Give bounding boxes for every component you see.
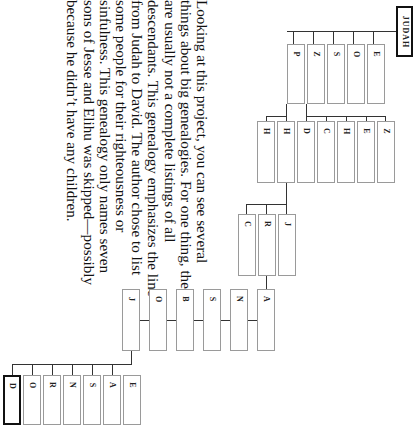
node-gen3-r: R [258,214,276,276]
node-chain-s: S [203,289,221,351]
node-label: O [27,382,37,388]
node-label: D [7,383,17,389]
node-chain-n: N [230,289,248,351]
connector [373,31,374,44]
node-label: J [126,297,136,301]
node-label: S [331,52,341,56]
node-jesse-n: N [63,375,81,425]
node-label: S [207,297,217,301]
node-label: E [127,382,137,387]
node-label: C [242,221,252,227]
connector [194,320,203,321]
node-label: JUDAH [400,15,410,48]
node-gen2-h1: H [257,121,275,183]
node-gen2-e: E [357,121,375,183]
connector [286,104,287,121]
node-label: H [261,128,271,134]
node-label: A [261,296,271,302]
connector [313,31,314,44]
connector [266,204,267,214]
connector [32,364,33,375]
node-jesse-o: O [23,375,41,425]
node-judah: JUDAH [396,6,413,57]
connector [92,364,93,375]
node-label: B [180,296,190,301]
connector [293,31,294,44]
node-gen1-z: Z [307,44,325,104]
node-chain-b: B [176,289,194,351]
node-label: D [301,128,311,134]
connector [112,364,113,375]
node-label: N [234,296,244,302]
node-jesse-e: E [123,375,141,425]
node-gen2-h2: H [277,121,295,183]
connector [246,204,247,214]
node-label: A [107,382,117,388]
connector [286,183,287,214]
node-gen1-o: O [347,44,365,104]
node-label: E [371,51,381,56]
connector [140,320,149,321]
node-gen1-e: E [367,44,385,104]
node-label: R [47,382,57,388]
paragraph-text: Looking at this project, you can see sev… [64,0,210,300]
node-label: R [262,221,272,227]
node-chain-j: J [122,289,140,351]
connector [221,320,230,321]
node-gen1-p: P [287,44,305,104]
connector [131,351,132,365]
connector [353,31,354,44]
node-label: S [87,383,97,387]
node-label: J [282,222,292,226]
connector [266,276,267,289]
node-label: P [291,52,301,57]
node-label: C [321,128,331,134]
node-label: E [361,128,371,133]
node-label: O [153,296,163,302]
connector [266,116,287,117]
node-gen2-d: D [297,121,315,183]
node-chain-a: A [257,289,275,351]
connector [12,364,13,375]
node-gen2-c: C [317,121,335,183]
connector [72,364,73,375]
connector [306,104,307,121]
node-label: O [351,51,361,57]
node-jesse-r: R [43,375,61,425]
node-label: H [341,128,351,134]
node-label: Z [381,128,391,133]
node-jesse-s: S [83,375,101,425]
connector [167,320,176,321]
node-gen3-c: C [238,214,256,276]
commentary-paragraph: Looking at this project, you can see sev… [64,0,210,300]
node-gen1-s: S [327,44,345,104]
node-label: Z [311,51,321,56]
node-jesse-d-david: D [3,375,21,425]
node-gen2-z: Z [377,121,395,183]
node-label: N [67,382,77,388]
connector [287,31,396,32]
node-label: H [281,128,291,134]
node-gen3-j: J [278,214,296,276]
node-jesse-a: A [103,375,121,425]
connector [333,31,334,44]
node-gen2-h3: H [337,121,355,183]
connector [52,364,53,375]
connector [248,320,257,321]
node-chain-o: O [149,289,167,351]
